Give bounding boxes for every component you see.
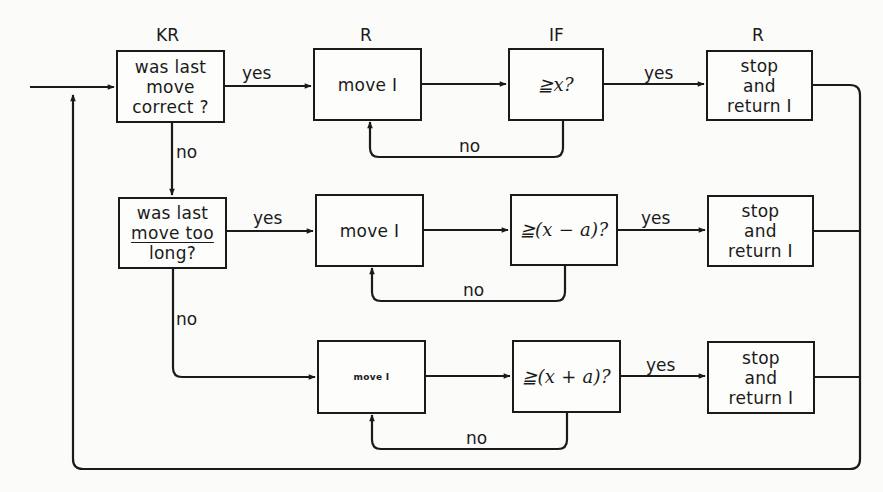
condition-text: ≧x?	[538, 75, 574, 95]
result-line: return I	[729, 388, 794, 408]
decision-box-correct: was last move correct ?	[116, 50, 225, 123]
decision-line: move too	[131, 223, 214, 243]
no-loop-label: no	[466, 429, 487, 447]
action-text: move I	[340, 221, 400, 241]
flowchart-diagram: KR R IF R was last move correct ? yes mo…	[0, 0, 883, 492]
yes-label: yes	[641, 209, 670, 227]
yes-label: yes	[242, 64, 271, 82]
result-line: stop	[741, 56, 779, 76]
yes-label: yes	[646, 356, 675, 374]
no-loop-label: no	[459, 137, 480, 155]
no-branch-label: no	[176, 310, 197, 328]
header-kr: KR	[156, 26, 179, 44]
action-text: move I	[354, 367, 390, 387]
action-box-move: move I	[317, 340, 426, 414]
no-loop-label: no	[463, 281, 484, 299]
condition-box: ≧(x + a)?	[512, 340, 621, 413]
header-r-action: R	[360, 26, 372, 44]
result-box: stop and return I	[706, 50, 813, 121]
result-line: and	[745, 368, 778, 388]
result-line: return I	[728, 241, 793, 261]
action-box-move: move I	[313, 48, 422, 121]
yes-label: yes	[253, 209, 282, 227]
condition-box: ≧x?	[508, 48, 604, 121]
decision-line: move	[146, 77, 195, 97]
header-r-result: R	[752, 26, 764, 44]
result-line: stop	[742, 201, 780, 221]
result-line: and	[744, 221, 777, 241]
result-box: stop and return I	[707, 341, 815, 414]
result-line: return I	[727, 96, 792, 116]
action-text: move I	[338, 75, 398, 95]
action-box-move: move I	[315, 194, 424, 267]
condition-text: ≧(x + a)?	[522, 367, 611, 387]
decision-box-too-long: was last move too long?	[118, 197, 227, 269]
header-if: IF	[549, 26, 564, 44]
condition-text: ≧(x − a)?	[520, 220, 609, 240]
decision-line: was last	[137, 203, 209, 223]
result-line: and	[743, 76, 776, 96]
decision-line: was last	[135, 57, 207, 77]
decision-line: long?	[149, 243, 196, 263]
result-box: stop and return I	[707, 195, 814, 267]
condition-box: ≧(x − a)?	[510, 194, 618, 266]
decision-line: correct ?	[132, 97, 209, 117]
result-line: stop	[742, 348, 780, 368]
yes-label: yes	[644, 64, 673, 82]
no-branch-label: no	[176, 143, 197, 161]
